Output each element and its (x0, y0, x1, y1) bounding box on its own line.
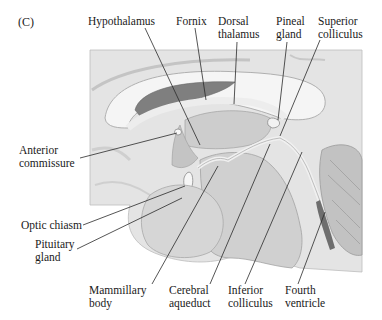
label-anterior-commissure: Anterior commissure (19, 144, 75, 169)
label-fornix: Fornix (176, 15, 207, 28)
label-superior-colliculus: Superior colliculus (318, 15, 363, 40)
label-pineal-gland: Pineal gland (276, 15, 305, 40)
pons (141, 185, 223, 258)
panel-label: (C) (18, 15, 34, 30)
anterior-commissure (175, 129, 182, 135)
label-inferior-colliculus: Inferior colliculus (228, 284, 273, 309)
label-dorsal-thalamus: Dorsal thalamus (218, 15, 260, 40)
label-hypothalamus: Hypothalamus (88, 15, 155, 28)
label-cerebral-aqueduct: Cerebral aqueduct (169, 284, 211, 309)
label-fourth-ventricle: Fourth ventricle (285, 284, 325, 309)
label-pituitary-gland: Pituitary gland (35, 238, 75, 263)
label-optic-chiasm: Optic chiasm (21, 219, 82, 232)
label-mammillary-body: Mammillary body (89, 284, 147, 309)
